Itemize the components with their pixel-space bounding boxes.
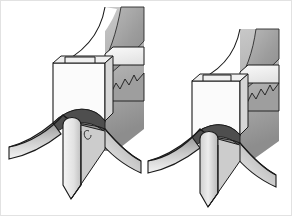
view-left-v-tip	[63, 118, 105, 200]
figure-frame	[0, 0, 292, 216]
illustration-canvas	[1, 1, 291, 215]
view-left	[9, 7, 144, 199]
view-right	[148, 29, 279, 207]
block-side-face	[240, 74, 248, 135]
v-tip	[63, 118, 81, 200]
block-side-face	[105, 56, 113, 121]
swept-wing-left	[148, 137, 200, 173]
swept-wing-left	[9, 123, 61, 159]
